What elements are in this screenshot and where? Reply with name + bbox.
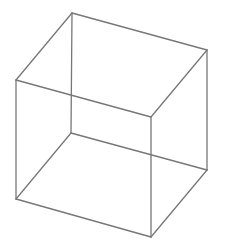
- edge-back-top-left-to-back-bottom-left: [71, 13, 72, 133]
- edge-front-top-left-to-front-top-right: [16, 80, 151, 117]
- edge-back-top-left-to-back-top-right: [72, 13, 207, 50]
- edge-front-bottom-left-to-front-bottom-right: [16, 199, 151, 237]
- cube-diagram: [0, 0, 225, 252]
- edge-back-top-right-to-front-top-right: [151, 50, 207, 117]
- edge-back-top-left-to-front-top-left: [16, 13, 72, 80]
- edge-back-bottom-right-to-front-bottom-right: [151, 170, 207, 237]
- cube-edges: [16, 13, 207, 237]
- edge-back-bottom-left-to-back-bottom-right: [71, 133, 207, 170]
- wireframe-cube: [0, 0, 225, 252]
- edge-back-bottom-left-to-front-bottom-left: [16, 133, 71, 199]
